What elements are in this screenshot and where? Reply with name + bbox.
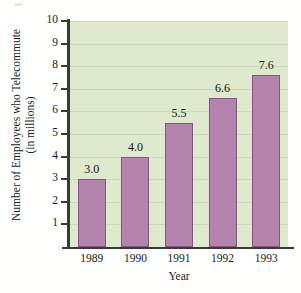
y-axis-tick-label: 10: [28, 13, 58, 25]
y-axis-tick-mark: [61, 88, 69, 90]
y-axis-tick-label: 1: [28, 216, 58, 228]
y-axis-title-line1: Number of Employees who Telecommute: [9, 29, 23, 221]
y-axis-tick-mark: [61, 65, 69, 67]
y-axis-tick-mark: [61, 110, 69, 112]
x-axis-tick-label: 1993: [242, 252, 290, 264]
bar-value-label-1993: 7.6: [246, 58, 286, 73]
x-axis-line: [62, 247, 294, 250]
bar-1991: [165, 123, 193, 247]
y-axis-tick-label: 5: [28, 126, 58, 138]
x-axis-tick-label: 1989: [68, 252, 116, 264]
y-axis-tick-mark: [61, 223, 69, 225]
bar-1990: [121, 157, 149, 247]
y-axis-tick-label: 3: [28, 171, 58, 183]
y-axis-tick-mark: [61, 201, 69, 203]
y-axis-tick-mark: [61, 133, 69, 135]
x-axis-tick-label: 1990: [111, 252, 159, 264]
gridline: [70, 44, 288, 45]
y-axis-tick-label: 9: [28, 36, 58, 48]
x-axis-tick-label: 1991: [155, 252, 203, 264]
y-axis-tick-label: 2: [28, 194, 58, 206]
bar-value-label-1990: 4.0: [115, 140, 155, 155]
y-axis-tick-mark: [61, 178, 69, 180]
x-axis-tick-label: 1992: [199, 252, 247, 264]
y-axis-tick-label: 7: [28, 81, 58, 93]
gridline: [70, 21, 288, 22]
y-axis-tick-label: 4: [28, 149, 58, 161]
y-axis-tick-mark: [61, 20, 69, 22]
bar-value-label-1992: 6.6: [203, 81, 243, 96]
bar-value-label-1991: 5.5: [159, 106, 199, 121]
x-axis-title: Year: [70, 270, 288, 282]
bar-1992: [209, 98, 237, 247]
bar-1989: [78, 179, 106, 247]
y-axis-tick-label: 8: [28, 58, 58, 70]
y-axis-tick-mark: [61, 43, 69, 45]
y-axis-tick-label: 6: [28, 103, 58, 115]
plot-area: [70, 21, 288, 247]
bar-1993: [252, 75, 280, 247]
bar-chart-figure: Number of Employees who Telecommute (in …: [0, 0, 301, 293]
bar-value-label-1989: 3.0: [72, 162, 112, 177]
y-axis-tick-mark: [61, 156, 69, 158]
